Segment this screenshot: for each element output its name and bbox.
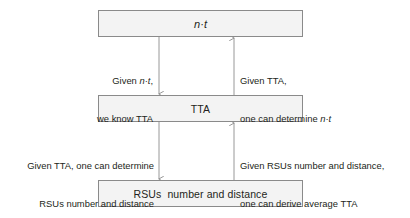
- edge-label-nt-to-tta-line1: Given n·t,: [20, 75, 153, 88]
- edge-label-tta-to-rsus: Given TTA, one can determine RSUs number…: [4, 135, 154, 218]
- edge-label-rsus-to-tta-line2: one can derive average TTA: [240, 198, 408, 211]
- relationship-flow-diagram: n·t TTA RSUs number and distance Given n…: [0, 0, 410, 218]
- edge-label-tta-to-rsus-line2: RSUs number and distance: [4, 198, 154, 211]
- node-n-times-t-label: n·t: [194, 18, 207, 30]
- node-tta-label: TTA: [191, 103, 210, 115]
- edge-label-nt-to-tta-line2: we know TTA: [20, 113, 153, 126]
- edge-label-rsus-to-tta-line1: Given RSUs number and distance,: [240, 160, 408, 173]
- edge-label-tta-to-nt-line2: one can determine n·t: [240, 113, 405, 126]
- edge-label-tta-to-nt-line1: Given TTA,: [240, 75, 405, 88]
- edge-label-rsus-to-tta: Given RSUs number and distance, one can …: [240, 135, 408, 218]
- node-n-times-t[interactable]: n·t: [98, 10, 303, 37]
- edge-label-tta-to-rsus-line1: Given TTA, one can determine: [4, 160, 154, 173]
